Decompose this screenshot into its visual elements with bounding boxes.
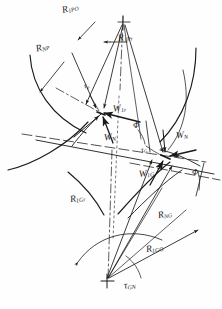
label-r1pr: R1Pr (117, 32, 133, 44)
label-phi-lower: Φ (192, 168, 198, 177)
inclined-axis-dash-dot (56, 88, 101, 113)
tooth-profile-arc-lower-left (8, 122, 88, 170)
label-phi-upper: Φ (133, 121, 139, 130)
label-w1g: W1G (138, 168, 154, 180)
velocity-vector-left-aux (74, 116, 99, 137)
tau-p-angle-tick (90, 96, 99, 111)
label-wn-right: WN (176, 130, 189, 141)
phi-angle-arc-upper (138, 130, 145, 144)
tooth-profile-arc-small-left (72, 114, 101, 146)
figure-canvas: R1PO R1Pr RNP τp W1r WN Φ WN τG W1G Φ R1… (0, 0, 222, 309)
rnp-leader-arrow (40, 62, 64, 92)
r1po-leader-arrow (78, 22, 95, 40)
technical-diagram (0, 0, 222, 309)
auxiliary-vertical-line (113, 96, 119, 240)
radius-vector-apex-to-right-contact (125, 25, 163, 152)
tau-gn-inner-arc (126, 256, 141, 278)
tangent-line-through-contacts (36, 140, 214, 174)
velocity-vector-right-aux (163, 130, 165, 152)
label-wn-left: WN (104, 132, 117, 143)
radius-vector-r1po (86, 25, 122, 104)
label-w1r: W1r (112, 103, 126, 115)
apex-tick-marks (118, 16, 130, 30)
tooth-profile-arc-upper-right (160, 48, 196, 142)
vertical-center-line (108, 16, 123, 280)
velocity-vector-wn-right (170, 150, 196, 156)
label-tau-gn: τGN (124, 280, 137, 291)
